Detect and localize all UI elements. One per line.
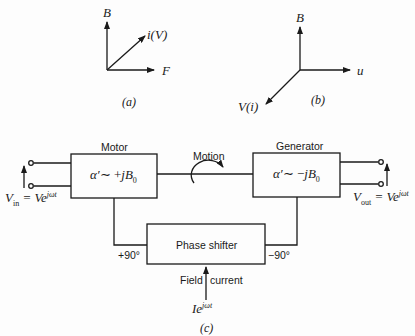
input-terminal-bottom	[29, 184, 34, 189]
motor-formula-op: ∼ +	[100, 167, 122, 182]
field-source-label: Iejωt	[192, 302, 212, 315]
fig-a-axis-b-label: B	[103, 6, 111, 19]
generator-formula-jb: jB	[304, 166, 316, 181]
input-terminal-top	[29, 161, 34, 166]
input-v: V	[5, 190, 13, 205]
fig-b-axis-b-label: B	[296, 11, 304, 24]
current-label: current	[210, 275, 243, 286]
motor-formula-sub: 0	[133, 176, 137, 185]
output-voltage-label: Vout = Vejωt	[353, 190, 409, 207]
motor-phase-link	[114, 198, 147, 245]
output-terminal-bottom	[379, 182, 384, 187]
field-source-base: Ie	[192, 301, 202, 316]
output-v: V	[353, 189, 361, 204]
generator-formula-op: ∼ −	[283, 166, 305, 181]
generator-phase-link	[265, 197, 297, 245]
motion-label: Motion	[193, 151, 225, 162]
input-voltage-label: Vin = Vejωt	[5, 191, 57, 208]
output-terminal-top	[379, 160, 384, 165]
motor-formula-jb: jB	[121, 167, 133, 182]
output-eq: = Ve	[371, 189, 399, 204]
field-source-exp: jωt	[202, 301, 212, 310]
diagram-canvas	[0, 0, 415, 336]
motor-formula: α′∼ +jB0	[90, 168, 137, 185]
generator-formula-alpha: α′	[273, 166, 283, 181]
fig-a-axis-iv-label: i(V)	[147, 28, 167, 41]
generator-formula: α′∼ −jB0	[273, 167, 320, 184]
phase-minus90-label: −90°	[268, 250, 290, 261]
fig-b-axis-vi-label: V(i)	[238, 100, 258, 113]
motor-formula-alpha: α′	[90, 167, 100, 182]
motion-arrow	[191, 160, 223, 183]
output-sub: out	[361, 198, 371, 207]
generator-title: Generator	[276, 141, 323, 152]
input-eq: = Ve	[19, 190, 47, 205]
phase-plus90-label: +90°	[118, 250, 140, 261]
fig-a-caption: (a)	[122, 96, 136, 108]
fig-b-axis-u-label: u	[357, 64, 364, 77]
input-exp: jωt	[47, 190, 57, 199]
phase-shifter-title: Phase shifter	[176, 240, 237, 251]
fig-c-caption: (c)	[200, 322, 213, 334]
motor-title: Motor	[101, 142, 128, 153]
fig-a-axis-f-label: F	[162, 64, 170, 77]
figure-b-axes	[266, 27, 350, 104]
generator-formula-sub: 0	[316, 175, 320, 184]
fig-b-caption: (b)	[311, 94, 325, 106]
output-exp: jωt	[399, 189, 409, 198]
field-label: Field	[180, 275, 203, 286]
